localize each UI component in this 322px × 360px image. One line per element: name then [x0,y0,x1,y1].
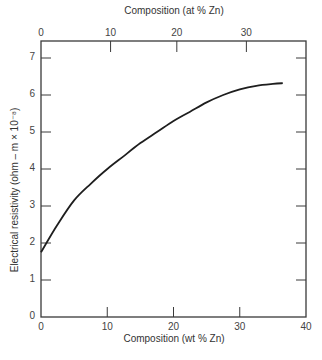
top-axis-ticks [111,41,247,52]
top-tick-label: 20 [162,28,192,38]
bottom-axis-title: Composition (wt % Zn) [0,334,322,344]
left-tick-label: 7 [15,52,35,62]
top-axis-title: Composition (at % Zn) [0,6,322,16]
resistivity-curve [41,83,283,252]
bottom-tick-label: 30 [225,322,255,332]
top-tick-label: 30 [231,28,261,38]
left-tick-label: 6 [15,89,35,99]
y-axis-title: Electrical resistivity (ohm – m × 10⁻⁸) [10,108,20,273]
bottom-tick-label: 20 [159,322,189,332]
top-tick-label: 0 [26,28,56,38]
left-tick-label: 1 [15,274,35,284]
bottom-tick-label: 0 [26,322,56,332]
left-tick-label: 0 [15,311,35,321]
plot-frame [41,41,306,317]
top-tick-label: 10 [96,28,126,38]
bottom-axis-ticks [107,307,240,317]
bottom-tick-label: 40 [291,322,321,332]
resistivity-chart [0,0,322,360]
right-axis-ticks [296,58,306,280]
bottom-tick-label: 10 [92,322,122,332]
left-axis-ticks [41,58,51,280]
